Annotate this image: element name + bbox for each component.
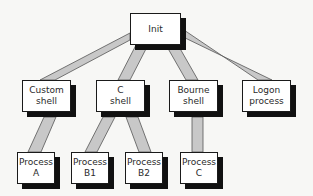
edge-init-custom-shell (40, 33, 130, 80)
edge-bourne-shell-process-c (192, 117, 203, 152)
edge-init-bourne-shell (166, 45, 198, 80)
node-process-c: Process C (180, 152, 218, 184)
node-bourne-shell: Bourne shell (169, 80, 218, 112)
node-logon-process: Logon process (242, 80, 291, 112)
edge-init-logon-process (181, 28, 272, 80)
node-c-shell: C shell (96, 80, 145, 112)
node-process-a: Process A (17, 152, 55, 184)
node-custom-shell: Custom shell (22, 80, 71, 112)
process-tree-diagram: Init Custom shell C shell Bourne shell L… (0, 0, 313, 196)
edge-c-shell-process-b1 (85, 117, 115, 152)
edge-c-shell-process-b2 (126, 117, 151, 152)
edge-init-c-shell (118, 45, 148, 80)
node-process-b1: Process B1 (71, 152, 109, 184)
edge-custom-shell-process-a (28, 117, 56, 152)
node-init: Init (130, 13, 181, 45)
node-process-b2: Process B2 (125, 152, 163, 184)
